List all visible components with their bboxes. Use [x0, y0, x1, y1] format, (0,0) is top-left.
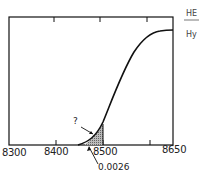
side-header: HE: [186, 9, 197, 18]
x-tick-8300: 8300: [2, 147, 26, 158]
x-tick-8400: 8400: [44, 146, 68, 157]
curve-line: [78, 30, 173, 145]
side-sub: Hy: [186, 30, 197, 39]
x-tick-8500: 8500: [93, 146, 117, 157]
question-label: ?: [73, 116, 78, 126]
x-tick-8650: 8650: [162, 144, 186, 155]
value-label: 0.0026: [98, 162, 130, 172]
